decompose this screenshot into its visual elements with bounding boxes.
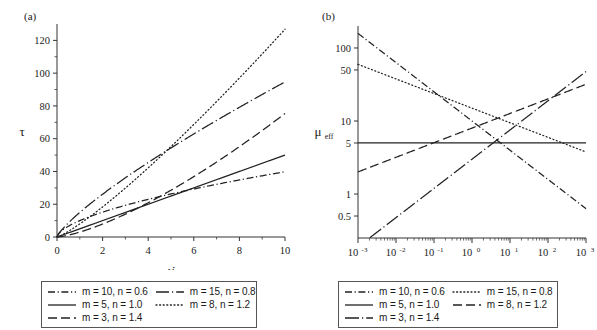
legend-line-sample <box>344 299 374 310</box>
svg-text:γ̇: γ̇ <box>167 263 175 270</box>
svg-text:μ: μ <box>315 124 322 139</box>
curve-m-10-n-0-6 <box>57 172 285 237</box>
svg-text:1: 1 <box>346 189 351 200</box>
svg-text:10: 10 <box>462 247 473 258</box>
svg-text:2: 2 <box>553 246 557 254</box>
curve-m-10-n-0-6 <box>358 33 586 208</box>
legend-line-sample <box>452 299 482 310</box>
legend-entry: m = 8, n = 1.2 <box>452 298 553 311</box>
svg-text:4: 4 <box>146 245 152 256</box>
legend-entry-label: m = 10, n = 0.6 <box>82 286 148 297</box>
legend-line-sample <box>155 286 185 297</box>
svg-text:10: 10 <box>500 247 511 258</box>
svg-text:10: 10 <box>386 247 397 258</box>
svg-text:80: 80 <box>40 101 51 112</box>
svg-text:5: 5 <box>346 138 351 149</box>
legend-entry-label: m = 8, n = 1.2 <box>190 299 250 310</box>
legend-entry: m = 10, n = 0.6 <box>344 285 445 298</box>
svg-text:eff: eff <box>325 132 334 141</box>
svg-text:0.5: 0.5 <box>338 211 351 222</box>
legend-entry: m = 3, n = 1.4 <box>344 311 445 324</box>
legend-entry-label: m = 3, n = 1.4 <box>379 312 439 323</box>
svg-text:20: 20 <box>40 199 51 210</box>
svg-text:3: 3 <box>591 246 595 254</box>
legend-line-sample <box>344 286 374 297</box>
panel-b: (b) 0.515105010010-310-210-1100101102103… <box>298 0 596 330</box>
curve-m-3-n-1-4 <box>57 114 285 237</box>
curve-m-5-n-1-0 <box>57 155 285 237</box>
legend-line-sample <box>344 312 374 323</box>
svg-text:1: 1 <box>515 246 519 254</box>
legend-entry: m = 5, n = 1.0 <box>47 298 148 311</box>
svg-text:10: 10 <box>341 116 352 127</box>
svg-text:100: 100 <box>335 43 351 54</box>
legend-entry: m = 5, n = 1.0 <box>344 298 445 311</box>
svg-text:10: 10 <box>576 247 587 258</box>
svg-text:8: 8 <box>237 245 242 256</box>
legend-entry: m = 15, n = 0.8 <box>452 285 553 298</box>
svg-text:6: 6 <box>191 245 196 256</box>
legend-entry-label: m = 15, n = 0.8 <box>190 286 256 297</box>
legend-entry-label: m = 15, n = 0.8 <box>487 286 553 297</box>
legend-entry-label: m = 5, n = 1.0 <box>82 299 142 310</box>
svg-text:100: 100 <box>34 68 50 79</box>
svg-text:γ̇: γ̇ <box>468 266 476 270</box>
legend-line-sample <box>452 286 482 297</box>
legend-entry-label: m = 3, n = 1.4 <box>82 312 142 323</box>
svg-text:τ: τ <box>19 124 24 139</box>
legend-line-sample <box>47 312 77 323</box>
svg-text:-1: -1 <box>438 246 444 254</box>
legend-entry: m = 8, n = 1.2 <box>155 298 256 311</box>
svg-text:0: 0 <box>477 246 481 254</box>
svg-text:50: 50 <box>341 65 352 76</box>
curve-m-8-n-1-2 <box>57 29 285 237</box>
panel-b-legend: m = 10, n = 0.6m = 15, n = 0.8m = 5, n =… <box>338 281 558 328</box>
legend-line-sample <box>47 299 77 310</box>
svg-text:120: 120 <box>34 35 50 46</box>
legend-entry: m = 15, n = 0.8 <box>155 285 256 298</box>
curve-m-15-n-0-8 <box>358 64 586 152</box>
panel-a: (a) 0204060801001200246810τγ̇ m = 10, n … <box>0 0 298 330</box>
curve-m-15-n-0-8 <box>57 82 285 237</box>
legend-line-sample <box>155 299 185 310</box>
svg-text:-2: -2 <box>400 246 406 254</box>
legend-entry-label: m = 10, n = 0.6 <box>379 286 445 297</box>
panel-a-plot: 0204060801001200246810τγ̇ <box>0 0 298 270</box>
legend-entry-label: m = 5, n = 1.0 <box>379 299 439 310</box>
svg-text:0: 0 <box>54 245 59 256</box>
legend-entry: m = 3, n = 1.4 <box>47 311 148 324</box>
panel-b-plot: 0.515105010010-310-210-1100101102103μeff… <box>298 0 596 270</box>
svg-text:10: 10 <box>538 247 549 258</box>
figure-container: (a) 0204060801001200246810τγ̇ m = 10, n … <box>0 0 597 330</box>
legend-entry-label: m = 8, n = 1.2 <box>487 299 547 310</box>
svg-text:0: 0 <box>45 232 50 243</box>
panel-a-legend: m = 10, n = 0.6m = 15, n = 0.8m = 5, n =… <box>41 281 257 328</box>
svg-text:10: 10 <box>424 247 435 258</box>
svg-text:40: 40 <box>40 166 51 177</box>
svg-text:-3: -3 <box>362 246 368 254</box>
svg-text:10: 10 <box>280 245 291 256</box>
svg-text:2: 2 <box>100 245 105 256</box>
svg-text:10: 10 <box>348 247 359 258</box>
legend-line-sample <box>47 286 77 297</box>
legend-entry: m = 10, n = 0.6 <box>47 285 148 298</box>
svg-text:60: 60 <box>40 133 51 144</box>
